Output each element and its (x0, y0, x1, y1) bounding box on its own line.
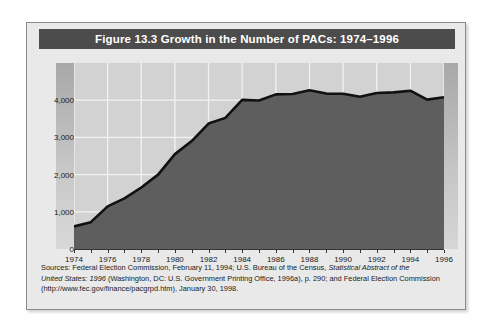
source-line-1-text: Sources: Federal Election Commission, Fe… (41, 263, 328, 272)
x-tick-mark (427, 250, 428, 253)
source-line-1-italic: Statistical Abstract of the (328, 263, 409, 272)
x-tick-mark (276, 250, 277, 253)
x-tick-mark (192, 250, 193, 253)
x-tick-mark (242, 250, 243, 253)
x-tick-mark (360, 250, 361, 253)
y-tick-label: 2,000 (28, 170, 74, 179)
x-tick-mark (377, 250, 378, 253)
x-tick-mark (124, 250, 125, 253)
x-tick-mark (141, 250, 142, 253)
area-chart-svg (74, 63, 444, 249)
y-tick-label: 3,000 (28, 133, 74, 142)
x-tick-mark (309, 250, 310, 253)
figure-title-banner: Figure 13.3 Growth in the Number of PACs… (39, 29, 455, 49)
source-line-2-text: (Washington, DC: U.S. Government Printin… (106, 274, 440, 283)
area-fill (74, 90, 444, 249)
chart-region: Number of PACs 01,0002,0003,0004,000 197… (27, 55, 467, 255)
x-tick-mark (410, 250, 411, 253)
plot-area (74, 63, 444, 249)
x-tick-mark (444, 250, 445, 253)
x-tick-mark (259, 250, 260, 253)
right-gradient-band (444, 63, 458, 249)
x-tick-mark (343, 250, 344, 253)
source-line-3: (http://www.fec.gov/finance/pacgrpd.htm)… (41, 284, 453, 295)
x-tick-mark (175, 250, 176, 253)
source-line-1: Sources: Federal Election Commission, Fe… (41, 263, 453, 274)
x-tick-mark (293, 250, 294, 253)
x-tick-mark (158, 250, 159, 253)
y-tick-label: 1,000 (28, 207, 74, 216)
figure-title: Figure 13.3 Growth in the Number of PACs… (95, 33, 399, 45)
x-tick-mark (225, 250, 226, 253)
source-line-2-italic: United States: 1996 (41, 274, 106, 283)
x-tick-mark (209, 250, 210, 253)
y-tick-label: 4,000 (28, 96, 74, 105)
x-tick-mark (108, 250, 109, 253)
figure-frame: Figure 13.3 Growth in the Number of PACs… (26, 22, 466, 310)
source-note: Sources: Federal Election Commission, Fe… (41, 263, 453, 295)
x-tick-mark (394, 250, 395, 253)
source-line-2: United States: 1996 (Washington, DC: U.S… (41, 274, 453, 285)
x-tick-mark (74, 250, 75, 253)
y-axis-ticks: 01,0002,0003,0004,000 (27, 55, 74, 255)
x-tick-mark (91, 250, 92, 253)
x-tick-mark (326, 250, 327, 253)
